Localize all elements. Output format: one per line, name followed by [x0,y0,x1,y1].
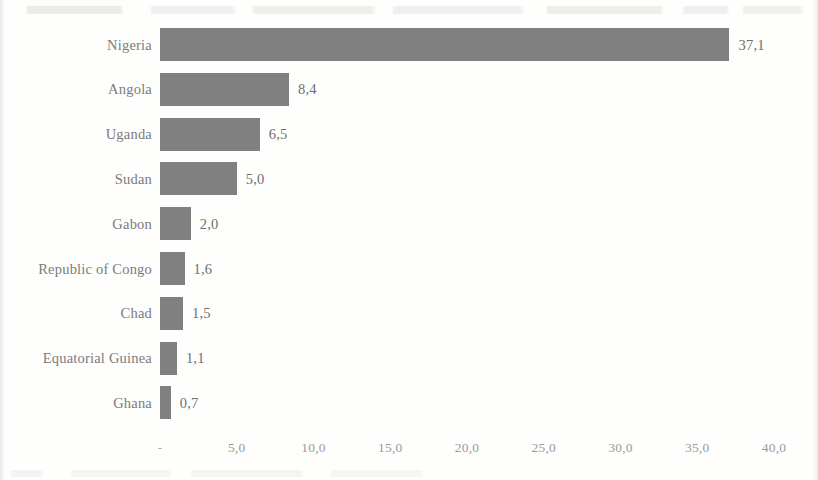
x-axis-tick-label: 15,0 [378,440,402,456]
bar-row: Angola8,4 [0,73,818,106]
scan-artifact-top [0,6,818,14]
bar [160,73,289,106]
x-axis-tick-label: 10,0 [301,440,325,456]
bar [160,297,183,330]
bar-row: Sudan5,0 [0,162,818,195]
category-label: Equatorial Guinea [43,350,152,367]
category-label: Nigeria [107,36,152,53]
x-axis-tick-label: - [158,440,163,456]
category-label: Angola [108,81,152,98]
x-axis-tick-label: 25,0 [532,440,556,456]
bar [160,386,171,419]
x-axis-tick-label: 40,0 [762,440,786,456]
bar [160,207,191,240]
scan-artifact-bottom [0,470,818,477]
category-label: Gabon [112,215,152,232]
category-label: Ghana [113,394,152,411]
x-axis-tick-label: 35,0 [685,440,709,456]
bar [160,162,237,195]
bar-row: Nigeria37,1 [0,28,818,61]
bar-row: Ghana0,7 [0,386,818,419]
category-label: Sudan [115,170,152,187]
bar-row: Republic of Congo1,6 [0,252,818,285]
bar-row: Equatorial Guinea1,1 [0,342,818,375]
x-axis-tick-label: 30,0 [608,440,632,456]
bar-row: Uganda6,5 [0,118,818,151]
bar-chart: Nigeria37,1Angola8,4Uganda6,5Sudan5,0Gab… [0,0,818,480]
bar-value-label: 5,0 [246,170,265,187]
bar-row: Chad1,5 [0,297,818,330]
bar-value-label: 1,5 [192,305,211,322]
bar-row: Gabon2,0 [0,207,818,240]
bar-value-label: 37,1 [738,36,764,53]
bar [160,118,260,151]
x-axis: -5,010,015,020,025,030,035,040,0 [0,440,818,462]
bar [160,342,177,375]
x-axis-tick-label: 5,0 [228,440,245,456]
bar-value-label: 1,1 [186,350,205,367]
bar-value-label: 8,4 [298,81,317,98]
bar-value-label: 2,0 [200,215,219,232]
category-label: Republic of Congo [38,260,152,277]
x-axis-tick-label: 20,0 [455,440,479,456]
bar [160,28,729,61]
bar [160,252,185,285]
category-label: Uganda [106,126,152,143]
bar-value-label: 6,5 [269,126,288,143]
category-label: Chad [121,305,152,322]
plot-area: Nigeria37,1Angola8,4Uganda6,5Sudan5,0Gab… [0,24,818,424]
bar-value-label: 0,7 [180,394,199,411]
bar-value-label: 1,6 [194,260,213,277]
